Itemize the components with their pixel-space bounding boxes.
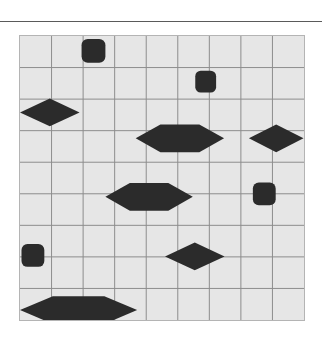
shape-marker-hexagon (105, 183, 192, 211)
shape-marker-rounded-square (253, 182, 276, 205)
shape-marker-rounded-square (82, 39, 106, 63)
shape-marker-hexagon (136, 124, 224, 152)
shape-marker-diamond (20, 99, 80, 127)
shape-marker-diamond (165, 243, 225, 271)
figure-root (0, 0, 327, 344)
grid-panel (19, 35, 305, 321)
shape-marker-rounded-square (21, 244, 44, 267)
shape-marker-rounded-square (195, 71, 216, 93)
shape-marker-diamond (249, 124, 304, 152)
top-horizontal-rule (0, 21, 322, 22)
shape-marker-layer (20, 36, 304, 320)
shape-marker-hexagon (20, 296, 137, 320)
